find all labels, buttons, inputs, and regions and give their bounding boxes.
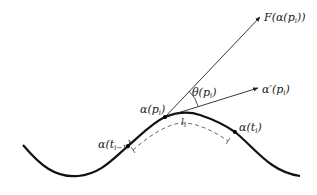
label-angle: θ(pi) <box>192 86 217 100</box>
label-tangent-vector: α′(pi) <box>262 83 290 97</box>
label-point-t: α(ti) <box>239 121 262 135</box>
label-point-t-prev: α(ti−1) <box>98 138 131 152</box>
point-alpha-t <box>233 130 237 134</box>
label-point-p: α(pi) <box>140 103 165 117</box>
arc-length-tick-right <box>226 138 230 144</box>
curve-diagram: F(α(pi)) α′(pi) θ(pi) α(pi) α(ti−1) α(ti… <box>0 0 317 195</box>
label-force-vector: F(α(pi)) <box>263 11 306 25</box>
arc-length-tick-left <box>131 147 135 153</box>
arc-length-dashed <box>133 123 228 150</box>
label-arc-length: li <box>181 117 186 129</box>
